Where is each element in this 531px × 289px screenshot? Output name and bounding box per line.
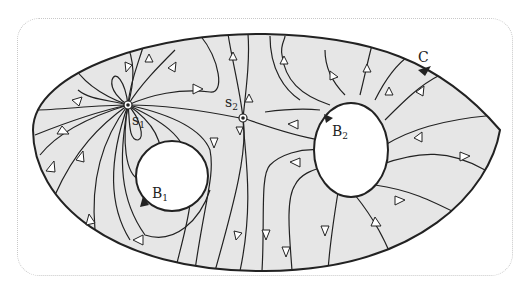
streamline-diagram: C B1 B2 s1 s2	[0, 0, 531, 289]
singular-point-s1	[124, 101, 132, 109]
label-c: C	[418, 49, 429, 65]
singular-point-s2	[239, 114, 247, 122]
hole-b1	[136, 141, 208, 211]
